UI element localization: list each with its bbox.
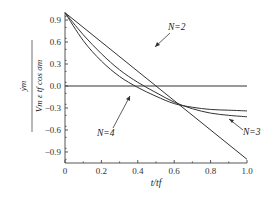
ticks: 00.20.40.60.81.00.90.60.30.0−0.3−0.6−0.9: [45, 15, 253, 176]
y-tick-label: 0.0: [50, 81, 62, 91]
x-tick-label: 0.4: [132, 166, 144, 176]
y-label-numerator: ẏm: [18, 80, 28, 92]
y-tick-label: −0.9: [45, 147, 62, 157]
y-tick-label: 0.9: [50, 15, 62, 25]
y-tick-label: 0.3: [50, 59, 62, 69]
line-chart: 00.20.40.60.81.00.90.60.30.0−0.3−0.6−0.9…: [0, 0, 267, 197]
arrow-n4: [113, 96, 130, 128]
annotation-n4: N=4: [96, 96, 130, 138]
y-tick-label: −0.3: [45, 103, 62, 113]
y-tick-label: −0.6: [45, 125, 62, 135]
annotation-n3: N=3: [229, 119, 261, 137]
curves: [65, 13, 247, 160]
y-label-denominator: Vm ε tf cos σm: [34, 59, 44, 112]
curve-n3: [65, 13, 247, 117]
x-tick-label: 1.0: [241, 166, 253, 176]
y-axis-label: ẏm Vm ε tf cos σm: [18, 40, 44, 132]
annotation-n2: N=2: [155, 22, 186, 47]
x-tick-label: 0.2: [96, 166, 107, 176]
label-n2: N=2: [167, 22, 186, 32]
y-tick-label: 0.6: [50, 37, 62, 47]
x-tick-label: 0.6: [169, 166, 181, 176]
x-tick-label: 0.8: [205, 166, 217, 176]
x-axis-label: t/tf: [151, 178, 163, 188]
label-n3: N=3: [242, 127, 261, 137]
x-tick-label: 0: [63, 166, 68, 176]
label-n4: N=4: [96, 128, 115, 138]
curve-n4: [65, 13, 247, 111]
